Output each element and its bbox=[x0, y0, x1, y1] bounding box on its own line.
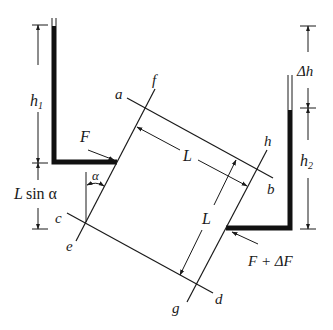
permeameter-diagram: h1 Lsin α F α a f c e L h b L F + ΔF g d… bbox=[0, 0, 333, 330]
label-F-plus-dF: F + ΔF bbox=[247, 253, 294, 269]
sample-lines bbox=[67, 89, 273, 302]
dimension-L-top bbox=[137, 127, 247, 186]
label-L-side: L bbox=[201, 210, 211, 227]
label-L-sin-alpha: Lsin α bbox=[13, 185, 58, 202]
label-h2: h2 bbox=[300, 152, 313, 171]
right-tube bbox=[226, 75, 292, 228]
label-delta-h: Δh bbox=[296, 63, 313, 79]
label-d: d bbox=[215, 291, 223, 307]
label-a: a bbox=[115, 86, 123, 102]
line-ab bbox=[127, 98, 273, 178]
label-alpha: α bbox=[92, 168, 100, 183]
line-ef bbox=[76, 89, 155, 241]
label-h: h bbox=[264, 133, 272, 149]
label-g: g bbox=[172, 300, 180, 316]
label-e: e bbox=[66, 238, 73, 254]
label-h1: h1 bbox=[30, 92, 43, 111]
label-L-top: L bbox=[182, 147, 192, 164]
label-b: b bbox=[267, 181, 275, 197]
label-f: f bbox=[152, 72, 158, 88]
label-F: F bbox=[79, 128, 90, 145]
label-c: c bbox=[55, 210, 62, 226]
